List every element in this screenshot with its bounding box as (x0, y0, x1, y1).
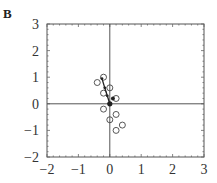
open-circle-point (94, 80, 100, 86)
scatter-plot: −2−10123−2−10123 (0, 0, 217, 183)
plot-frame (47, 24, 204, 157)
vector-dot (106, 94, 109, 97)
x-tick-label: 1 (138, 162, 145, 177)
y-tick-label: 1 (32, 70, 39, 85)
y-tick-label: −1 (24, 123, 39, 138)
x-tick-label: 2 (169, 162, 176, 177)
x-tick-label: −2 (40, 162, 55, 177)
y-tick-label: 0 (32, 97, 39, 112)
filled-point (108, 102, 112, 106)
vector-dot (103, 86, 106, 89)
open-circle-point (113, 127, 119, 133)
open-circle-point (113, 111, 119, 117)
x-tick-label: 0 (106, 162, 113, 177)
open-circle-point (119, 122, 125, 128)
x-tick-label: 3 (201, 162, 208, 177)
y-tick-label: 2 (32, 44, 39, 59)
x-tick-label: −1 (71, 162, 86, 177)
filled-point (111, 96, 115, 100)
y-tick-label: 3 (32, 17, 39, 32)
y-tick-label: −2 (24, 150, 39, 165)
vector-dot (101, 77, 104, 80)
open-circle-point (101, 106, 107, 112)
mean-vector-line (102, 79, 110, 104)
